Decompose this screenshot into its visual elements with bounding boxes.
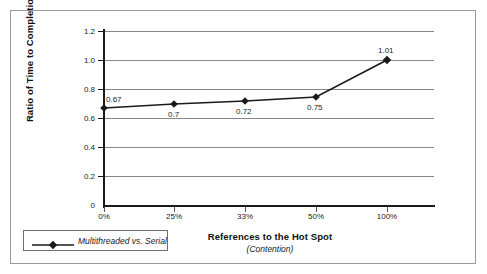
x-axis-line — [103, 205, 435, 207]
y-tick-label-0-2: 0.2 — [69, 172, 95, 181]
gridline-0-2 — [104, 176, 434, 177]
plot-area — [104, 31, 434, 206]
x-tick-label-0: 0% — [84, 212, 124, 221]
y-tick-label-1-0: 1.0 — [69, 56, 95, 65]
point-label-0: 0.67 — [106, 95, 122, 104]
y-tick-label-0-6: 0.6 — [69, 114, 95, 123]
x-tick-label-100: 100% — [367, 212, 407, 221]
x-axis-title: References to the Hot Spot — [160, 231, 380, 243]
gridline-0-8 — [104, 89, 434, 90]
gridline-1-2 — [104, 31, 434, 32]
x-tick-label-50: 50% — [296, 212, 336, 221]
x-axis-title-block: References to the Hot Spot (Contention) — [160, 231, 380, 255]
legend-line-marker-icon — [32, 236, 74, 246]
chart-figure: 1.2 1.0 0.8 0.6 0.4 0.2 0 0% 25% 33% 50%… — [0, 0, 487, 274]
gridline-0-6 — [104, 118, 434, 119]
point-label-4: 1.01 — [378, 46, 394, 55]
point-label-2: 0.72 — [236, 107, 252, 116]
y-tick-label-0-8: 0.8 — [69, 85, 95, 94]
point-label-1: 0.7 — [168, 110, 179, 119]
gridline-1-0 — [104, 60, 434, 61]
y-axis-line — [103, 29, 105, 208]
x-axis-subtitle: (Contention) — [160, 243, 380, 255]
legend-item-label: Multithreaded vs. Serial — [78, 236, 167, 246]
x-tick-label-25: 25% — [154, 212, 194, 221]
y-tick-label-0: 0 — [69, 201, 95, 210]
y-tick-label-1-2: 1.2 — [69, 27, 95, 36]
legend-item-multithreaded-vs-serial: Multithreaded vs. Serial — [24, 231, 167, 250]
y-tick-label-0-4: 0.4 — [69, 143, 95, 152]
gridline-0-4 — [104, 147, 434, 148]
legend: Multithreaded vs. Serial — [23, 230, 168, 251]
x-tick-label-33: 33% — [225, 212, 265, 221]
y-axis-title: Ratio of Time to Completion — [24, 0, 35, 123]
point-label-3: 0.75 — [307, 103, 323, 112]
